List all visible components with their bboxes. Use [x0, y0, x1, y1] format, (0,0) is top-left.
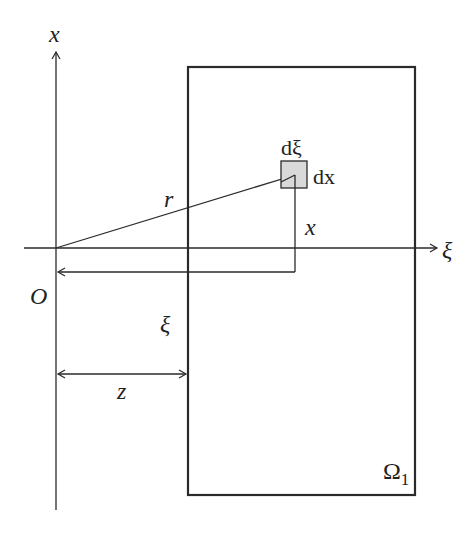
- element-width-label: dξ: [281, 135, 302, 160]
- region-label: Ω1: [383, 458, 409, 489]
- horizontal-axis-label: ξ: [442, 237, 453, 263]
- radius-line: [56, 175, 295, 248]
- area-element: [281, 161, 307, 188]
- radius-label: r: [164, 186, 174, 212]
- element-height-label: dx: [313, 164, 335, 189]
- origin-label: O: [30, 283, 47, 309]
- xi-distance-label: ξ: [160, 311, 171, 337]
- z-distance-label: z: [116, 378, 127, 404]
- region-omega1: [188, 67, 415, 495]
- vertical-axis-label: x: [48, 21, 60, 47]
- height-label: x: [304, 214, 316, 240]
- region-label-main: Ω: [383, 458, 401, 484]
- diagram-canvas: x ξ O dξ dx r x ξ z Ω1: [0, 0, 472, 533]
- region-label-sub: 1: [401, 470, 410, 489]
